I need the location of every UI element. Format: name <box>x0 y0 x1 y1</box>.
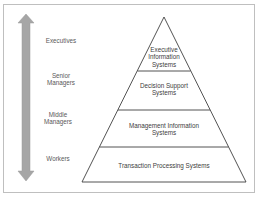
level-management-information-systems: Management Information Systems <box>114 122 214 137</box>
level-transaction-processing-systems: Transaction Processing Systems <box>104 162 224 169</box>
role-label-middle-managers: Middle Managers <box>33 111 83 126</box>
role-label-senior-managers: Senior Managers <box>36 72 86 87</box>
role-label-workers: Workers <box>33 155 83 162</box>
level-executive-information-systems: Executive Information Systems <box>134 46 194 68</box>
pyramid-outline <box>82 17 246 182</box>
level-decision-support-systems: Decision Support Systems <box>124 82 204 97</box>
pyramid-diagram <box>0 0 262 200</box>
role-label-executives: Executives <box>36 37 86 44</box>
double-arrow-icon <box>18 14 34 181</box>
